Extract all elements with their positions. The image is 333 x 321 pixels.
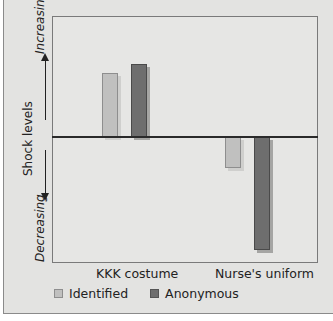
bar-kkk-identified [102,73,118,137]
anonymous-swatch-icon [150,289,159,298]
legend-item-identified: Identified [54,286,128,301]
decreasing-label: Decreasing [33,194,47,262]
legend: Identified Anonymous [54,286,261,301]
category-label-nurse: Nurse's uniform [215,266,314,281]
increasing-label: Increasing [33,0,47,54]
legend-label-anonymous: Anonymous [165,286,239,301]
y-axis-label: Shock levels [21,101,35,176]
bar-nurse-identified [225,137,241,168]
legend-label-identified: Identified [69,286,128,301]
decreasing-arrow-shaft [45,150,46,195]
zero-baseline [52,136,318,138]
plot-area [52,16,318,263]
bar-kkk-anonymous [131,64,147,137]
bar-nurse-anonymous [254,137,270,250]
arrow-up-icon [41,53,49,61]
identified-swatch-icon [54,289,63,298]
legend-item-anonymous: Anonymous [150,286,239,301]
increasing-arrow-shaft [45,60,46,120]
category-label-kkk: KKK costume [96,266,178,281]
